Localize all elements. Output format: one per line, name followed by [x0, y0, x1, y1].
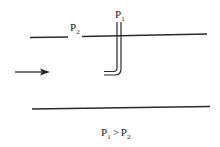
pipe-bottom-wall — [32, 107, 210, 110]
pitot-tube-diagram: P2 P1 P1>P2 — [0, 0, 220, 147]
pitot-tube-inner — [104, 22, 117, 72]
p1-label: P1 — [115, 8, 125, 23]
pipe-top-wall-right — [82, 34, 207, 37]
pipe-top-wall-left — [30, 37, 68, 38]
pressure-relation: P1>P2 — [101, 126, 131, 141]
flow-arrow-icon — [15, 69, 50, 76]
pitot-tube-outer — [104, 22, 121, 75]
p2-label: P2 — [70, 21, 80, 36]
